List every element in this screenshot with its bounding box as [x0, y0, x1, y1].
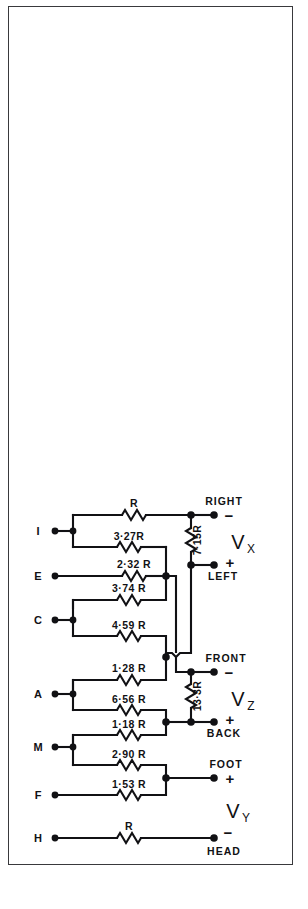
voltage-vz-symbol: V — [231, 688, 245, 710]
terminal-foot-polarity: + — [226, 770, 235, 787]
terminal-left-label: LEFT — [208, 570, 238, 582]
terminal-front-label: FRONT — [205, 652, 246, 664]
input-node-E — [52, 573, 122, 580]
resistor-r-h — [52, 833, 218, 843]
input-node-A-label: A — [34, 688, 42, 700]
resistor-r-top — [73, 510, 191, 520]
resistor-r-f — [52, 778, 166, 800]
resistor-r-a-lower-label: 6·56 R — [112, 693, 146, 705]
terminal-foot-label: FOOT — [209, 758, 242, 770]
resistor-r-h-label: R — [125, 820, 133, 832]
resistor-r-a-upper-label: 1·28 R — [112, 662, 146, 674]
resistor-r-f-label: 1·53 R — [112, 778, 146, 790]
voltage-vx: V X — [231, 531, 255, 556]
terminal-front-polarity: − — [225, 664, 234, 681]
input-node-F-label: F — [35, 789, 42, 801]
terminal-left-polarity: + — [226, 554, 235, 571]
resistor-r-vz-label: 13·3R — [191, 681, 203, 712]
terminal-head-label: HEAD — [207, 845, 241, 857]
resistor-r-m-upper-label: 1·18 R — [112, 718, 146, 730]
input-node-C — [52, 600, 77, 636]
wire-e-to-left-rail — [166, 576, 176, 652]
input-node-H-label: H — [34, 832, 42, 844]
terminal-right-label: RIGHT — [205, 495, 243, 507]
voltage-vy-symbol: V — [226, 800, 240, 822]
wire-left-rail-hop — [166, 565, 191, 657]
input-node-M — [52, 735, 77, 765]
resistor-r-c-lower — [73, 631, 166, 657]
terminal-foot — [162, 774, 218, 782]
circuit-schematic: R I 3·27R E 2·32 R — [0, 0, 308, 909]
voltage-vy: V Y — [226, 800, 250, 825]
voltage-vx-subscript: X — [247, 542, 255, 556]
voltage-vz-subscript: Z — [247, 699, 254, 713]
input-node-M-label: M — [33, 741, 42, 753]
resistor-r-m-lower-label: 2·90 R — [112, 748, 146, 760]
voltage-vy-subscript: Y — [242, 811, 250, 825]
terminal-right-polarity: − — [225, 507, 234, 524]
input-node-A — [52, 680, 77, 710]
figure-page: R I 3·27R E 2·32 R — [0, 0, 308, 909]
voltage-vx-symbol: V — [231, 531, 245, 553]
input-node-E-label: E — [34, 570, 41, 582]
terminal-back — [166, 718, 218, 726]
terminal-head-polarity: − — [224, 824, 233, 841]
resistor-r-e — [122, 571, 166, 581]
resistor-r-c-lower-label: 4·59 R — [112, 619, 146, 631]
resistor-r-m-lower — [73, 760, 166, 778]
terminal-back-label: BACK — [207, 727, 241, 739]
resistor-r-c-upper-label: 3·74 R — [112, 582, 146, 594]
input-node-I — [52, 515, 77, 547]
resistor-r-i-label: 3·27R — [114, 530, 145, 542]
resistor-r-e-label: 2·32 R — [117, 558, 151, 570]
resistor-r-top-label: R — [130, 497, 138, 509]
resistor-r-vx-label: 7·15R — [191, 525, 203, 556]
input-node-C-label: C — [34, 614, 42, 626]
input-node-I-label: I — [36, 525, 39, 537]
voltage-vz: V Z — [231, 688, 254, 713]
terminal-back-polarity: + — [226, 711, 235, 728]
